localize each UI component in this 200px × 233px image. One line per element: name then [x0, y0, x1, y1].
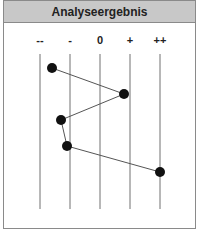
- data-point: [155, 167, 165, 177]
- profile-line: [52, 68, 160, 172]
- data-point: [56, 115, 66, 125]
- data-point: [62, 141, 72, 151]
- data-point: [119, 89, 129, 99]
- data-point: [47, 63, 57, 73]
- profile-chart: [0, 0, 200, 233]
